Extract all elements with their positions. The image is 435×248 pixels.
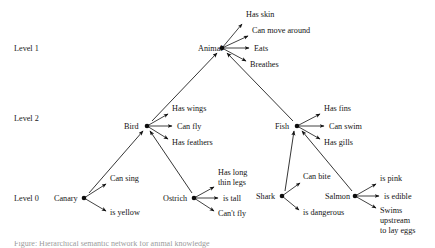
- property-label-canary-is-yellow: is yellow: [110, 208, 140, 217]
- level-label-level-1: Level 1: [14, 44, 39, 53]
- property-label-line: Swims: [380, 206, 402, 215]
- property-edge-fish-has-gills: [297, 126, 320, 139]
- concept-label-ostrich: Ostrich: [163, 194, 187, 203]
- concept-node-canary[interactable]: [82, 196, 87, 201]
- property-label-animal-breathes: Breathes: [250, 60, 279, 69]
- property-label-line: is yellow: [110, 208, 140, 217]
- property-edge-canary-is-yellow: [84, 198, 106, 211]
- property-label-fish-can-swim: Can swim: [329, 122, 363, 131]
- property-edge-bird-has-feathers: [147, 126, 168, 139]
- property-label-shark-can-bite: Can bite: [303, 172, 331, 181]
- property-label-animal-eats: Eats: [254, 44, 268, 53]
- property-label-fish-has-fins: Has fins: [324, 104, 351, 113]
- property-label-line: Can swim: [329, 122, 363, 131]
- concept-label-canary: Canary: [54, 194, 79, 203]
- property-label-line: Breathes: [250, 60, 279, 69]
- property-label-salmon-is-pink: is pink: [380, 174, 403, 183]
- property-label-line: thin legs: [218, 178, 246, 187]
- property-label-animal-has-skin: Has skin: [246, 10, 274, 19]
- property-label-shark-is-dangerous: is dangerous: [303, 208, 344, 217]
- hierarchy-edge-canary-to-bird: [89, 131, 143, 193]
- property-label-salmon-is-edible: is edible: [384, 192, 412, 201]
- property-label-line: Has wings: [172, 104, 206, 113]
- concept-label-bird: Bird: [124, 122, 139, 131]
- property-edge-fish-has-fins: [297, 114, 320, 126]
- concept-label-fish: Fish: [275, 122, 289, 131]
- property-label-line: upstream: [380, 216, 411, 225]
- property-label-line: Has skin: [246, 10, 274, 19]
- property-edge-animal-can-move-around: [222, 36, 248, 48]
- property-label-line: is dangerous: [303, 208, 344, 217]
- property-edge-salmon-is-pink: [355, 184, 376, 196]
- level-labels-group: Level 1Level 2Level 0: [14, 44, 39, 203]
- property-label-line: Eats: [254, 44, 268, 53]
- property-label-ostrich-cant-fly: Can't fly: [218, 209, 247, 218]
- property-label-fish-has-gills: Has gills: [324, 138, 353, 147]
- property-label-line: to lay eggs: [380, 226, 415, 235]
- property-edge-animal-has-skin: [222, 24, 242, 48]
- property-label-canary-can-sing: Can sing: [110, 174, 139, 183]
- property-label-line: is edible: [384, 192, 412, 201]
- property-edge-shark-can-bite: [282, 183, 300, 196]
- property-label-line: Can bite: [303, 172, 331, 181]
- concept-node-bird[interactable]: [145, 124, 150, 129]
- diagram-page: Level 1Level 2Level 0 AnimalBirdFishCana…: [0, 0, 435, 248]
- level-label-level-2: Level 2: [14, 114, 39, 123]
- property-edge-ostrich-has-long-thin-legs: [194, 187, 214, 198]
- hierarchy-edge-shark-to-fish: [285, 131, 294, 191]
- property-label-line: Can move around: [252, 26, 310, 35]
- property-label-bird-can-fly: Can fly: [177, 122, 202, 131]
- property-label-bird-has-feathers: Has feathers: [172, 138, 213, 147]
- property-edge-shark-is-dangerous: [282, 196, 299, 210]
- semantic-network-diagram: Level 1Level 2Level 0 AnimalBirdFishCana…: [0, 0, 435, 248]
- concept-label-animal: Animal: [198, 44, 223, 53]
- property-edge-animal-breathes: [222, 48, 246, 61]
- property-label-ostrich-has-long-thin-legs: Has longthin legs: [218, 168, 247, 187]
- property-label-salmon-swims-upstream-to-lay-eggs: Swimsupstreamto lay eggs: [380, 206, 415, 235]
- property-label-line: is pink: [380, 174, 403, 183]
- concept-node-shark[interactable]: [280, 194, 285, 199]
- concept-label-salmon: Salmon: [325, 192, 350, 201]
- property-label-line: is tall: [223, 194, 242, 203]
- concept-node-ostrich[interactable]: [192, 196, 197, 201]
- figure-caption-strip: Figure: Hierarchical semantic network fo…: [0, 241, 435, 248]
- concept-node-fish[interactable]: [295, 124, 300, 129]
- figure-caption: Figure: Hierarchical semantic network fo…: [14, 241, 209, 248]
- property-edge-ostrich-cant-fly: [194, 198, 214, 211]
- property-label-line: Can fly: [177, 122, 202, 131]
- level-label-level-0: Level 0: [14, 194, 39, 203]
- property-label-line: Has long: [218, 168, 247, 177]
- property-label-ostrich-is-tall: is tall: [223, 194, 242, 203]
- property-label-animal-can-move-around: Can move around: [252, 26, 310, 35]
- property-edge-salmon-swims-upstream-to-lay-eggs: [355, 196, 376, 208]
- property-labels-group: Has skinCan move aroundEatsBreathesHas w…: [110, 10, 415, 235]
- property-label-line: Has feathers: [172, 138, 213, 147]
- property-label-line: Can't fly: [218, 209, 247, 218]
- concept-node-salmon[interactable]: [353, 194, 358, 199]
- concept-label-shark: Shark: [256, 192, 276, 201]
- property-label-line: Has gills: [324, 138, 353, 147]
- property-label-line: Has fins: [324, 104, 351, 113]
- property-label-line: Can sing: [110, 174, 139, 183]
- property-label-bird-has-wings: Has wings: [172, 104, 206, 113]
